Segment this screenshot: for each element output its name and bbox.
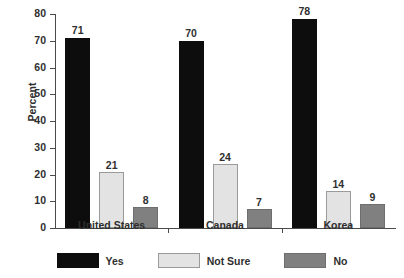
y-axis-line [55,14,56,228]
chart-legend: YesNot SureNo [0,253,404,268]
y-axis-tick: 60 [50,68,55,69]
plot-area: 01020304050607080 712187024778149 [55,14,395,228]
y-axis-tick: 30 [50,148,55,149]
y-axis-tick-label: 0 [40,221,46,233]
bar-chart: Percent 01020304050607080 71218702477814… [0,0,404,278]
y-axis-tick-label: 70 [34,34,46,46]
x-axis-label-united-states: United States [78,219,145,231]
bar-value-label: 14 [332,178,344,190]
y-axis-tick-label: 20 [34,168,46,180]
legend-label: Yes [106,255,124,267]
legend-item-yes[interactable]: Yes [57,253,124,268]
bar-korea-yes[interactable]: 78 [292,19,317,228]
bar-value-label: 8 [143,194,149,206]
y-axis-tick: 20 [50,175,55,176]
bar-value-label: 9 [369,191,375,203]
bar-value-label: 71 [72,24,84,36]
legend-swatch-icon [284,253,326,268]
y-axis-tick: 40 [50,121,55,122]
bar-value-label: 21 [106,159,118,171]
y-axis-tick-label: 50 [34,87,46,99]
legend-swatch-icon [57,253,99,268]
bar-value-label: 78 [298,5,310,17]
y-axis-tick-label: 30 [34,141,46,153]
y-axis-tick-label: 10 [34,194,46,206]
legend-item-not-sure[interactable]: Not Sure [158,253,251,268]
y-axis-tick: 50 [50,94,55,95]
y-axis-tick: 0 [50,228,55,229]
bar-value-label: 7 [256,196,262,208]
x-axis-label-canada: Canada [206,219,244,231]
y-axis-tick: 80 [50,14,55,15]
x-axis-label-korea: Korea [323,219,353,231]
y-axis-tick-label: 40 [34,114,46,126]
legend-label: Not Sure [207,255,251,267]
bar-canada-yes[interactable]: 70 [179,41,204,228]
y-axis-tick-label: 80 [34,7,46,19]
y-axis-tick-label: 60 [34,61,46,73]
y-axis-tick: 10 [50,201,55,202]
x-axis-separator-tick [282,228,283,233]
legend-item-no[interactable]: No [284,253,347,268]
x-axis-separator-tick [168,228,169,233]
y-axis-tick: 70 [50,41,55,42]
bar-value-label: 70 [185,27,197,39]
legend-label: No [333,255,347,267]
bar-united-states-yes[interactable]: 71 [65,38,90,228]
bar-korea-no[interactable]: 9 [360,204,385,228]
bar-canada-no[interactable]: 7 [247,209,272,228]
bar-value-label: 24 [219,151,231,163]
legend-swatch-icon [158,253,200,268]
